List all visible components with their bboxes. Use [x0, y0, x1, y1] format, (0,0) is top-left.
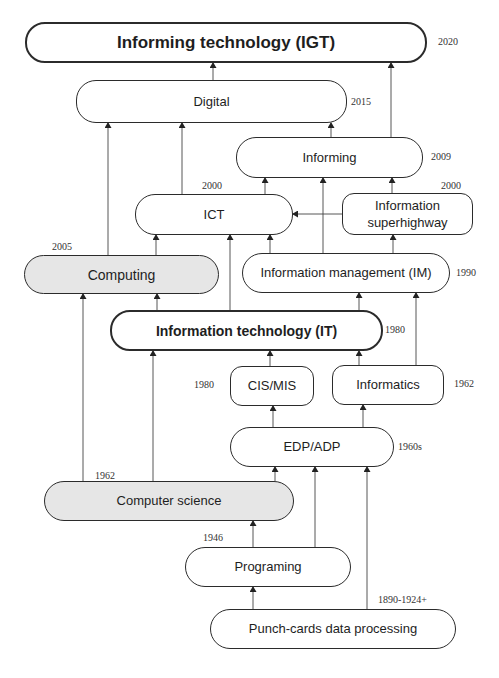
node-cis-mis: CIS/MIS — [230, 366, 314, 406]
node-label: Informing — [302, 150, 356, 166]
year-label: 2000 — [441, 180, 461, 191]
node-information-superhighway: Information superhighway — [342, 193, 473, 235]
node-informatics: Informatics — [332, 365, 444, 405]
year-label: 1980 — [385, 324, 405, 335]
node-label: Digital — [193, 94, 229, 110]
technology-evolution-diagram: Informing technology (IGT) 2020 Digital … — [0, 0, 499, 678]
node-label: Computing — [88, 267, 156, 283]
node-informing: Informing — [236, 137, 423, 178]
node-label: Programing — [234, 559, 301, 575]
year-label: 2009 — [431, 151, 451, 162]
node-information-management: Information management (IM) — [242, 253, 450, 293]
year-label: 2020 — [438, 36, 458, 47]
year-label: 1980 — [194, 379, 214, 390]
node-label: Punch-cards data processing — [249, 621, 417, 637]
node-informing-technology: Informing technology (IGT) — [25, 22, 427, 63]
node-digital: Digital — [76, 80, 347, 123]
node-label-line1: Information — [375, 197, 440, 214]
node-programing: Programing — [185, 547, 351, 587]
year-label: 2005 — [52, 241, 72, 252]
year-label: 1960s — [398, 441, 422, 452]
node-label: Informatics — [356, 377, 420, 393]
node-label-line2: superhighway — [367, 214, 447, 231]
year-label: 2000 — [202, 180, 222, 191]
year-label: 1890-1924+ — [378, 594, 427, 605]
node-computer-science: Computer science — [44, 481, 294, 521]
node-punch-cards-data-processing: Punch-cards data processing — [210, 609, 456, 649]
year-label: 1946 — [203, 532, 223, 543]
node-label: CIS/MIS — [248, 378, 296, 394]
node-ict: ICT — [135, 194, 293, 235]
node-computing: Computing — [24, 255, 219, 294]
node-label: Information management (IM) — [260, 265, 431, 281]
node-label: EDP/ADP — [283, 439, 340, 455]
node-label: Information technology (IT) — [156, 323, 337, 339]
year-label: 1962 — [95, 470, 115, 481]
node-information-technology: Information technology (IT) — [110, 310, 383, 351]
node-label: Informing technology (IGT) — [117, 35, 335, 51]
node-label: ICT — [204, 207, 225, 223]
year-label: 1990 — [456, 267, 476, 278]
node-edp-adp: EDP/ADP — [230, 427, 394, 467]
year-label: 1962 — [454, 378, 474, 389]
year-label: 2015 — [351, 96, 371, 107]
node-label: Computer science — [117, 493, 222, 509]
